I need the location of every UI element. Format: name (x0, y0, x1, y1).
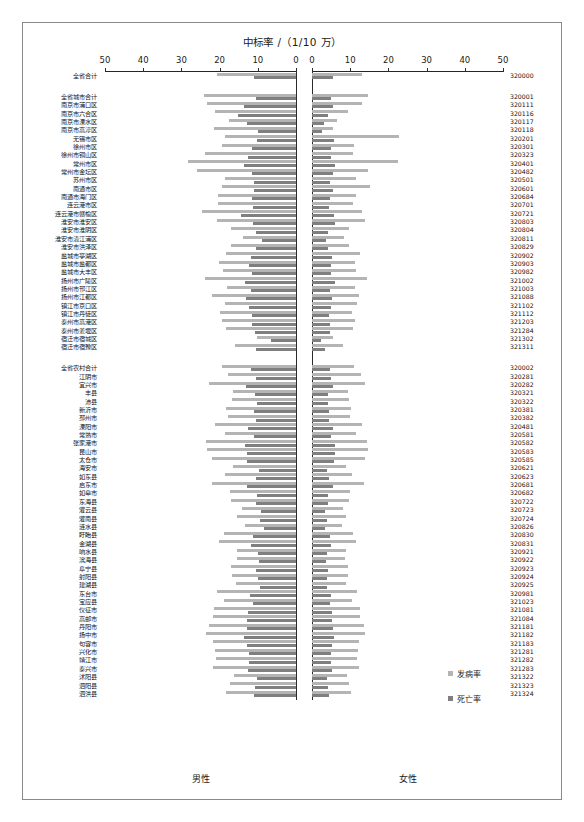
region-code: 320982 (510, 268, 534, 276)
category-label: 盱眙县 (0, 531, 97, 539)
female-mortality-bar (312, 460, 334, 463)
female-mortality-bar (312, 477, 329, 480)
male-mortality-bar (247, 619, 296, 622)
region-code: 320000 (510, 72, 534, 80)
female-mortality-bar (312, 172, 333, 175)
female-mortality-bar (312, 377, 331, 380)
region-code: 321081 (510, 606, 534, 614)
male-mortality-bar (256, 377, 296, 380)
female-mortality-bar (312, 577, 327, 580)
region-code: 320623 (510, 473, 534, 481)
male-mortality-bar (259, 560, 296, 563)
page-title: 中标率 /（1/10 万） (0, 34, 584, 49)
male-mortality-bar (259, 469, 296, 472)
male-mortality-bar (252, 197, 296, 200)
region-code: 320301 (510, 143, 534, 151)
category-label: 泰兴市 (0, 665, 97, 673)
category-label: 扬中市 (0, 631, 97, 639)
male-mortality-bar (257, 677, 296, 680)
female-mortality-bar (312, 197, 330, 200)
female-mortality-bar (312, 485, 333, 488)
category-label: 沛县 (0, 398, 97, 406)
region-code: 320921 (510, 548, 534, 556)
female-mortality-bar (312, 323, 330, 326)
female-mortality-bar (312, 105, 333, 108)
region-code: 320118 (510, 126, 534, 134)
region-code: 321281 (510, 648, 534, 656)
region-code: 320116 (510, 110, 534, 118)
category-label: 淮安市洪泽区 (0, 243, 97, 251)
category-label: 连云港市赣榆区 (0, 210, 97, 218)
male-mortality-bar (260, 519, 296, 522)
female-mortality-bar (312, 494, 328, 497)
female-mortality-bar (312, 289, 330, 292)
region-code: 320804 (510, 226, 534, 234)
axis-tick (143, 68, 144, 72)
female-mortality-bar (312, 339, 321, 342)
female-mortality-bar (312, 147, 331, 150)
axis-tick (388, 68, 389, 72)
region-code: 320924 (510, 573, 534, 581)
axis-scale: 5040302010001020304050 (0, 55, 584, 69)
male-mortality-bar (247, 452, 296, 455)
female-mortality-bar (312, 164, 335, 167)
female-mortality-bar (312, 627, 333, 630)
region-code: 320923 (510, 565, 534, 573)
region-code: 321002 (510, 277, 534, 285)
male-mortality-bar (254, 76, 296, 79)
male-mortality-bar (256, 419, 296, 422)
region-code: 320831 (510, 540, 534, 548)
female-mortality-bar (312, 435, 331, 438)
legend-item-mortality: 死亡率 (448, 693, 481, 704)
axis-tick-label-right-40: 40 (452, 55, 478, 65)
region-code: 321324 (510, 690, 534, 698)
category-label: 太仓市 (0, 456, 97, 464)
axis-tick (350, 68, 351, 72)
male-mortality-bar (238, 114, 296, 117)
category-label: 宿迁市宿豫区 (0, 343, 97, 351)
male-mortality-bar (244, 164, 296, 167)
male-mortality-bar (251, 544, 296, 547)
region-code: 321283 (510, 665, 534, 673)
female-mortality-bar (312, 452, 335, 455)
axis-tick (465, 68, 466, 72)
category-label: 如皋市 (0, 489, 97, 497)
male-mortality-bar (258, 552, 296, 555)
region-code: 320482 (510, 168, 534, 176)
female-mortality-bar (312, 348, 325, 351)
male-mortality-bar (246, 297, 296, 300)
axis-tick-label-left-30: 30 (168, 55, 194, 65)
region-code: 320829 (510, 243, 534, 251)
axis-tick (258, 68, 259, 72)
male-mortality-bar (248, 156, 296, 159)
female-mortality-bar (312, 419, 329, 422)
female-mortality-bar (312, 331, 330, 334)
region-code: 321323 (510, 682, 534, 690)
category-label: 泗阳县 (0, 682, 97, 690)
female-mortality-bar (312, 156, 331, 159)
male-mortality-bar (247, 627, 296, 630)
region-code: 321112 (510, 310, 534, 318)
category-label: 新沂市 (0, 406, 97, 414)
axis-tick-label-left-10: 10 (245, 55, 271, 65)
region-code: 321003 (510, 285, 534, 293)
female-mortality-bar (312, 502, 328, 505)
male-mortality-bar (254, 189, 296, 192)
male-mortality-bar (255, 393, 296, 396)
female-mortality-bar (312, 694, 329, 697)
category-label: 泰州市姜堰区 (0, 327, 97, 335)
male-mortality-bar (248, 611, 296, 614)
female-mortality-bar (312, 247, 328, 250)
region-code: 320903 (510, 260, 534, 268)
axis-tick-label-right-0: 0 (299, 55, 325, 65)
region-code: 320201 (510, 135, 534, 143)
male-mortality-bar (248, 427, 296, 430)
category-label: 宿迁市宿城区 (0, 335, 97, 343)
category-label: 南通市区 (0, 185, 97, 193)
male-mortality-bar (250, 594, 296, 597)
legend-swatch-icon (448, 696, 453, 701)
female-mortality-bar (312, 272, 331, 275)
male-mortality-bar (254, 410, 296, 413)
category-label: 昆山市 (0, 448, 97, 456)
category-label: 金湖县 (0, 540, 97, 548)
